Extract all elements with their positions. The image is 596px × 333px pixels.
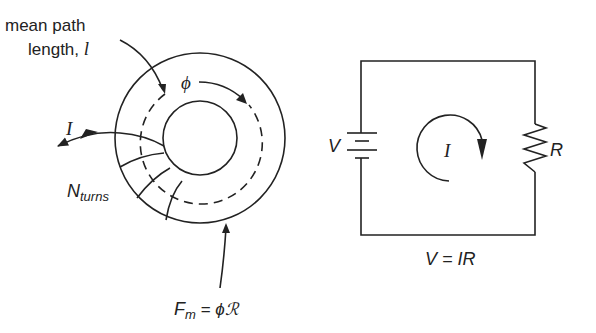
analogy-diagram: I ϕ mean path length, l Nturns Fm = ϕℛ V…	[0, 0, 596, 333]
winding-turn-1	[120, 153, 164, 167]
current-symbol-left: I	[65, 118, 74, 139]
resistor-icon	[524, 124, 546, 172]
coil-windings	[58, 133, 182, 220]
toroid-core	[115, 53, 285, 223]
current-loop-arrow-icon	[477, 139, 487, 160]
mmf-equation: Fm = ϕℛ	[174, 299, 240, 322]
voltage-label: V	[328, 136, 342, 156]
flux-symbol: ϕ	[181, 72, 191, 93]
current-input-wire	[58, 133, 164, 146]
circuit-wire-bottom	[361, 158, 535, 235]
resistance-label: R	[550, 140, 563, 160]
circuit-wire-top	[361, 61, 535, 133]
toroid-inner-edge	[163, 101, 237, 175]
mean-path-dashed-line	[140, 94, 262, 204]
mmf-pointer-arrow-icon	[222, 223, 230, 233]
winding-turn-2	[137, 168, 170, 198]
electric-circuit: V R I V = IR	[328, 61, 563, 269]
current-symbol-circuit: I	[443, 140, 452, 161]
mmf-pointer	[220, 228, 226, 288]
flux-direction-arc	[199, 82, 244, 100]
ohms-law-equation: V = IR	[425, 249, 476, 269]
battery-icon	[347, 133, 377, 158]
mean-path-pointer-arrow-icon	[158, 84, 166, 94]
mean-path-label-line1: mean path	[5, 16, 85, 35]
winding-turn-3	[166, 181, 182, 220]
mean-path-label-line2: length, l	[28, 38, 89, 59]
turns-label: Nturns	[67, 181, 109, 204]
